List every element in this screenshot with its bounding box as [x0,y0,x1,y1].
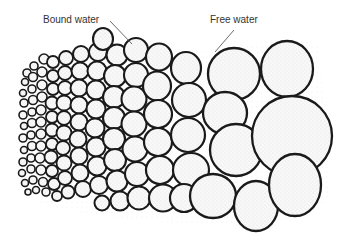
water-particles-diagram: Bound water Free water [0,0,339,240]
free-water-label: Free water [210,15,258,25]
bound-water-label: Bound water [43,15,99,25]
particles-illustration [0,0,339,240]
